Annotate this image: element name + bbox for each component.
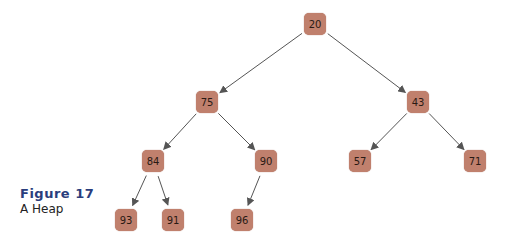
heap-node: 75	[196, 91, 218, 113]
edge-arrow	[248, 176, 260, 205]
figure-caption: Figure 17 A Heap	[20, 186, 94, 216]
edge-arrow	[328, 34, 405, 93]
heap-diagram: 20754384905771939196 Figure 17 A Heap	[0, 0, 508, 247]
edge-arrow	[371, 113, 407, 149]
heap-node: 71	[464, 150, 486, 172]
heap-node: 91	[162, 209, 184, 231]
heap-node: 90	[255, 150, 277, 172]
heap-node: 96	[231, 209, 253, 231]
figure-label: Figure 17	[20, 186, 94, 201]
heap-node: 84	[142, 150, 164, 172]
heap-node: 20	[304, 13, 326, 35]
edge-arrow	[429, 114, 464, 150]
edge-arrow	[220, 33, 302, 92]
edge-arrow	[133, 176, 147, 206]
heap-node: 57	[349, 150, 371, 172]
edge-arrow	[164, 114, 196, 149]
heap-node: 93	[115, 209, 137, 231]
heap-node: 43	[407, 91, 429, 113]
figure-caption-text: A Heap	[20, 202, 94, 216]
edge-arrow	[218, 113, 254, 149]
edge-arrow	[158, 176, 168, 205]
